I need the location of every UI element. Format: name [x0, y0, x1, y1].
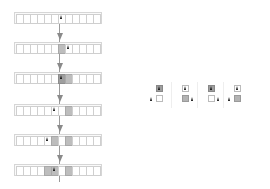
head-marker-icon [60, 75, 62, 79]
head-marker-icon [53, 167, 55, 171]
tape-cell [93, 14, 101, 24]
head-marker-icon [210, 86, 212, 90]
rule-key [146, 82, 250, 108]
head-marker-icon [228, 97, 230, 101]
tape-cell [93, 106, 101, 116]
head-marker-icon [46, 137, 48, 141]
head-marker-icon [53, 107, 55, 111]
tape-row [14, 42, 102, 54]
rule-output-cell [156, 95, 163, 102]
head-marker-icon [60, 15, 62, 19]
rule-panel [172, 82, 198, 108]
head-marker-icon [158, 86, 160, 90]
rule-panel [146, 82, 172, 108]
head-marker-icon [217, 97, 219, 101]
tape-row [14, 12, 102, 24]
tape-row [14, 164, 102, 176]
connector-line [59, 176, 60, 182]
tape-row [14, 134, 102, 146]
head-marker-icon [191, 97, 193, 101]
rule-panel [224, 82, 250, 108]
head-marker-icon [150, 97, 152, 101]
arrow-down-icon [57, 125, 63, 132]
head-marker-icon [184, 86, 186, 90]
arrow-down-icon [57, 33, 63, 40]
head-marker-icon [67, 45, 69, 49]
arrow-down-icon [57, 155, 63, 162]
rule-panel [198, 82, 224, 108]
tape-row [14, 104, 102, 116]
arrow-down-icon [57, 63, 63, 70]
head-marker-icon [236, 86, 238, 90]
rule-output-cell [234, 95, 241, 102]
tape-cell [93, 166, 101, 176]
tape-row [14, 72, 102, 84]
rule-output-cell [208, 95, 215, 102]
tape-cell [93, 74, 101, 84]
tape-cell [93, 136, 101, 146]
rule-output-cell [182, 95, 189, 102]
arrow-down-icon [57, 95, 63, 102]
tape-cell [93, 44, 101, 54]
